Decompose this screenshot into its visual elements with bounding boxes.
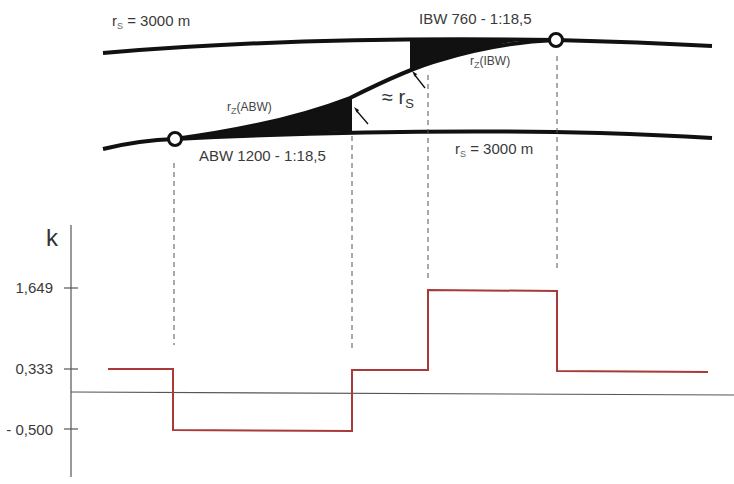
y-axis-label: k <box>46 224 58 252</box>
abw-switch-point <box>169 133 182 146</box>
rz-abw-label: rZ(ABW) <box>227 100 272 116</box>
ibw-switch-point <box>550 34 563 47</box>
track-diagram <box>0 0 734 484</box>
approx-rs-label: ≈ rS <box>382 86 414 111</box>
ibw-label: IBW 760 - 1:18,5 <box>419 10 532 27</box>
k-step-line <box>108 290 708 431</box>
rz-ibw-label: rZ(IBW) <box>470 54 510 70</box>
tick-0333: 0,333 <box>0 360 53 377</box>
top-track-line <box>103 39 712 53</box>
abw-label: ABW 1200 - 1:18,5 <box>199 147 326 164</box>
tick-1649: 1,649 <box>0 279 53 296</box>
bottom-track-line <box>103 131 712 149</box>
tick-neg0500: - 0,500 <box>0 421 53 438</box>
x-axis <box>71 392 734 395</box>
top-radius-label: rS = 3000 m <box>112 12 190 31</box>
bottom-radius-label: rS = 3000 m <box>455 140 533 159</box>
